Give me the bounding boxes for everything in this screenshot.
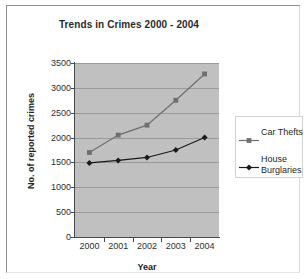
x-axis-tick-label: 2004 [188, 241, 222, 251]
data-point [173, 98, 178, 103]
x-axis-tick-mark [104, 238, 105, 242]
y-axis-tick-label: 0 [35, 232, 71, 242]
y-axis-tick-label: 500 [35, 207, 71, 217]
y-axis-tick-label: 2000 [35, 133, 71, 143]
series-car-thefts [87, 72, 207, 155]
x-axis-line [74, 237, 220, 238]
data-point [144, 154, 150, 160]
x-axis-tick-labels: 20002001200220032004 [75, 241, 219, 257]
legend-marker-icon [239, 158, 259, 167]
data-point [87, 150, 92, 155]
y-axis-tick-label: 1500 [35, 157, 71, 167]
data-point [115, 157, 121, 163]
x-axis-title: Year [75, 262, 219, 272]
data-point [202, 135, 208, 141]
legend-marker-icon [239, 131, 259, 140]
y-axis-tick-labels: 0500100015002000250030003500 [33, 63, 71, 237]
series-line [89, 74, 204, 153]
data-point [86, 160, 92, 166]
legend-label: HouseBurglaries [261, 154, 305, 176]
x-axis-tick-mark [133, 238, 134, 242]
y-axis-tick-mark [71, 237, 75, 238]
chart-title: Trends in Crimes 2000 - 2004 [7, 19, 251, 30]
x-axis-tick-mark [190, 238, 191, 242]
data-point [145, 123, 150, 128]
data-point [173, 147, 179, 153]
data-series-layer [75, 63, 219, 237]
legend-label: Car Thefts [261, 127, 305, 138]
y-axis-tick-label: 3000 [35, 83, 71, 93]
x-axis-tick-mark [161, 238, 162, 242]
data-point [116, 133, 121, 138]
y-axis-tick-label: 2500 [35, 108, 71, 118]
y-axis-tick-label: 1000 [35, 182, 71, 192]
y-axis-tick-label: 3500 [35, 58, 71, 68]
data-point [202, 72, 207, 77]
chart-image-frame: Trends in Crimes 2000 - 2004 No. of repo… [6, 5, 300, 273]
series-house-burglaries [86, 135, 207, 166]
chart-legend: Car TheftsHouseBurglaries [235, 116, 303, 178]
